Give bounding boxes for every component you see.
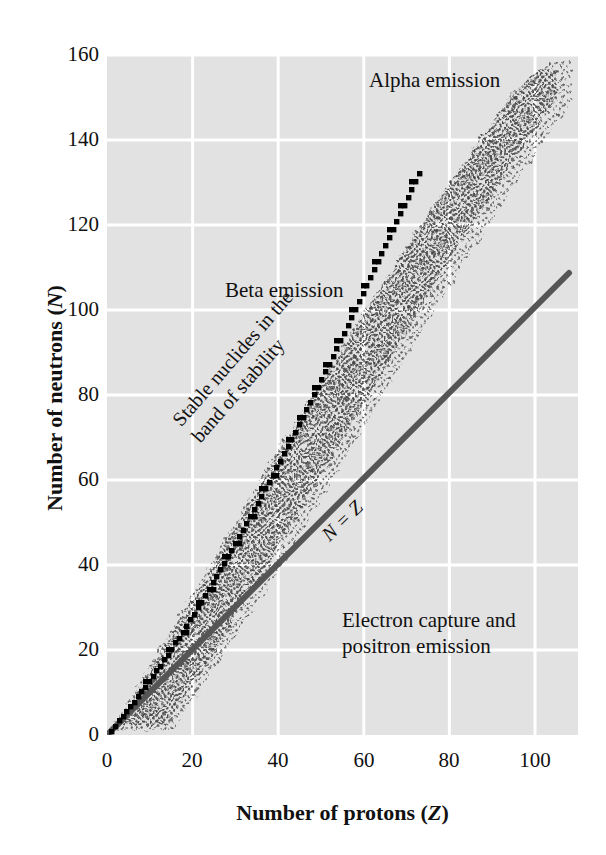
x-axis-title-symbol: Z [428, 800, 441, 825]
annotation-electron-capture: Electron capture and positron emission [342, 607, 516, 660]
x-tick-40: 40 [248, 748, 308, 773]
x-tick-20: 20 [162, 748, 222, 773]
y-axis-title-text: Number of neutrons ( [42, 308, 67, 511]
x-axis-title-text: Number of protons ( [236, 800, 428, 825]
annotation-electron-capture-line1: Electron capture and [342, 608, 516, 632]
y-axis-title-close: ) [42, 285, 67, 292]
annotation-alpha-emission: Alpha emission [369, 67, 500, 93]
annotation-electron-capture-line2: positron emission [342, 634, 491, 658]
x-tick-100: 100 [505, 748, 565, 773]
y-tick-0: 0 [47, 722, 99, 747]
nuclear-stability-chart: Alpha emission Beta emission Electron ca… [0, 0, 606, 855]
x-axis-title: Number of protons (Z) [107, 800, 578, 826]
x-tick-60: 60 [334, 748, 394, 773]
x-tick-80: 80 [419, 748, 479, 773]
y-axis-title: Number of neutrons (N) [42, 138, 68, 658]
plot-area: Alpha emission Beta emission Electron ca… [107, 55, 578, 735]
x-axis-title-close: ) [441, 800, 448, 825]
y-tick-160: 160 [47, 42, 99, 67]
y-axis-title-symbol: N [42, 292, 67, 308]
x-tick-0: 0 [77, 748, 137, 773]
